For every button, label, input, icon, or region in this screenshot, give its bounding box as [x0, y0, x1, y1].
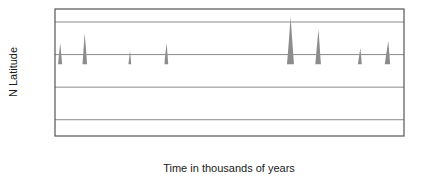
chart-figure: Time in thousands of years N Latitude [0, 0, 423, 183]
latitude-time-line-chart: Time in thousands of years N Latitude [0, 0, 423, 183]
x-axis-title: Time in thousands of years [163, 162, 295, 174]
y-axis-title: N Latitude [7, 47, 19, 97]
plot-area-background [55, 9, 404, 136]
